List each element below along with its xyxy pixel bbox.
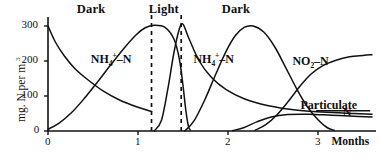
nitrogen-cycle-chart: DarkLightDarkNH4+–NNH4+–NNO2–NParticulat… bbox=[0, 0, 379, 166]
period-label-light-1: Light bbox=[149, 3, 179, 16]
series-annotation-2: NO2–N bbox=[292, 55, 328, 70]
series-annotation-4: N bbox=[343, 106, 352, 118]
x-tick-label-3: 3 bbox=[315, 136, 321, 147]
series-annotation-1: NH4+–N bbox=[193, 52, 234, 68]
y-axis-title: mg. N per m.3 bbox=[14, 57, 27, 122]
chart-canvas bbox=[0, 0, 379, 166]
period-label-dark-0: Dark bbox=[77, 3, 106, 16]
series-curve bbox=[185, 26, 334, 131]
x-tick-label-2: 2 bbox=[225, 136, 231, 147]
x-tick-label-1: 1 bbox=[135, 136, 141, 147]
series-curve bbox=[48, 25, 190, 130]
period-label-dark-2: Dark bbox=[222, 3, 251, 16]
y-tick-label-300: 300 bbox=[21, 19, 38, 30]
x-axis-title: Months bbox=[332, 136, 370, 148]
series-curve bbox=[48, 26, 152, 111]
series-annotation-0: NH4+–N bbox=[91, 52, 132, 68]
y-tick-label-0: 0 bbox=[34, 124, 40, 135]
x-tick-label-0: 0 bbox=[45, 136, 51, 147]
